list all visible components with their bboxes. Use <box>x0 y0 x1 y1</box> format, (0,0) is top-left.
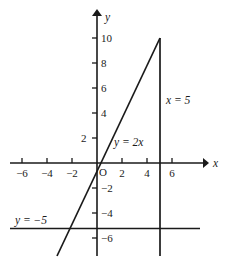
y-tick-label-neg6: −6 <box>101 232 113 244</box>
line-y-eq-2x <box>57 38 160 256</box>
y-tick-label-8: 8 <box>101 57 107 69</box>
x-tick-label-6: 6 <box>169 167 175 179</box>
x-tick-label-2: 2 <box>119 167 125 179</box>
label-y-eq-2x: y = 2x <box>113 136 144 149</box>
x-tick-label-neg6: −6 <box>16 167 28 179</box>
y-tick-label-4: 4 <box>101 107 107 119</box>
origin-label: O <box>99 166 107 178</box>
y-tick-label-6: 6 <box>101 82 107 94</box>
x-axis-arrow-icon <box>203 158 209 168</box>
label-x-eq-5: x = 5 <box>165 94 191 106</box>
y-tick-label-neg4: −4 <box>101 207 113 219</box>
label-y-eq-neg5: y = −5 <box>14 214 47 227</box>
y-tick-label-10: 10 <box>101 32 113 44</box>
x-tick-label-neg2: −2 <box>66 167 78 179</box>
graph-figure: −6 −4 −2 2 4 6 10 8 6 4 −2 −4 −6 2 O y x… <box>0 0 228 262</box>
coordinate-plane-svg: −6 −4 −2 2 4 6 10 8 6 4 −2 −4 −6 2 O y x… <box>0 0 228 262</box>
x-tick-label-4: 4 <box>144 167 150 179</box>
y-tick-label-2: 2 <box>81 132 87 144</box>
x-tick-label-neg4: −4 <box>41 167 53 179</box>
y-tick-label-neg2: −2 <box>101 182 113 194</box>
y-axis-arrow-icon <box>92 9 102 16</box>
y-axis-label: y <box>104 11 111 24</box>
x-axis-label: x <box>212 157 219 169</box>
